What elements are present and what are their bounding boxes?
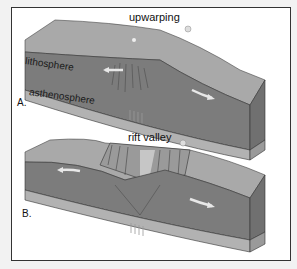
rift-valley-label: rift valley: [128, 131, 171, 143]
panel-b-letter: B.: [22, 208, 31, 219]
upwarping-label: upwarping: [129, 11, 180, 23]
panel-a-letter: A.: [17, 97, 26, 108]
panel-b-block: [25, 139, 265, 252]
